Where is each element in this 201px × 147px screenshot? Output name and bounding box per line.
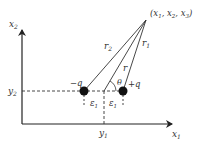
x-axis-label: x1 [172,129,181,140]
positive-charge-label: +q [128,79,141,89]
epsilon-left-label: ε1 [90,98,98,109]
point-label: (x1, x2, x3) [150,8,192,19]
positive-charge [119,87,128,96]
y-axis-label: x2 [9,19,18,30]
epsilon-right-label: ε1 [109,98,117,109]
r2-label: r2 [104,41,112,52]
theta-label: θ [117,78,122,87]
theta-arc [110,81,116,91]
negative-charge-label: −q [70,78,83,88]
y2-tick-label: y2 [7,86,17,97]
r-label: r [123,63,128,73]
dipole-diagram: x2 x1 (x1, x2, x3) r2 r r1 θ −q +q ε1 ε1… [0,0,201,147]
r1-label: r1 [142,38,150,49]
y1-tick-label: y1 [98,128,108,139]
